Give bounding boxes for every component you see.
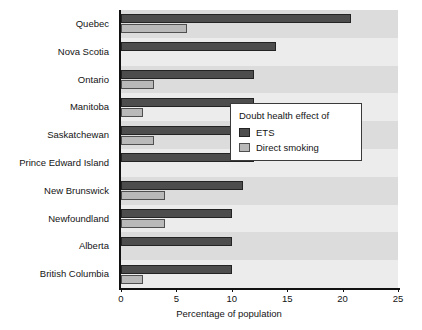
x-axis-title: Percentage of population xyxy=(0,308,422,319)
y-axis-line xyxy=(119,10,121,289)
legend-swatch-ets-icon xyxy=(239,128,250,137)
bar-ets-alberta xyxy=(121,237,232,246)
bar-direct-smoking-quebec xyxy=(121,24,187,33)
y-axis-label-nova-scotia: Nova Scotia xyxy=(58,47,109,57)
y-axis-label-saskatchewan: Saskatchewan xyxy=(47,130,109,140)
bar-ets-british-columbia xyxy=(121,265,232,274)
bar-direct-smoking-british-columbia xyxy=(121,275,143,284)
x-tick-label-25: 25 xyxy=(393,293,404,304)
x-tick-label-0: 0 xyxy=(118,293,123,304)
x-tick-label-15: 15 xyxy=(282,293,293,304)
legend-swatch-direct-smoking-icon xyxy=(239,143,250,152)
x-axis-title-text: Percentage of population xyxy=(176,308,282,319)
legend: Doubt health effect of ETS Direct smokin… xyxy=(230,103,362,161)
bar-direct-smoking-ontario xyxy=(121,80,154,89)
y-axis-label-manitoba: Manitoba xyxy=(70,102,109,112)
x-tick-label-10: 10 xyxy=(227,293,238,304)
y-axis-label-quebec: Quebec xyxy=(76,19,109,29)
bar-ets-ontario xyxy=(121,70,254,79)
x-tick-label-20: 20 xyxy=(337,293,348,304)
bar-direct-smoking-new-brunswick xyxy=(121,191,165,200)
y-axis-category-labels: QuebecNova ScotiaOntarioManitobaSaskatch… xyxy=(0,10,115,288)
bar-direct-smoking-saskatchewan xyxy=(121,136,154,145)
y-axis-label-alberta: Alberta xyxy=(79,241,109,251)
bar-chart: QuebecNova ScotiaOntarioManitobaSaskatch… xyxy=(0,0,422,330)
x-tick-mark xyxy=(287,288,288,292)
legend-title: Doubt health effect of xyxy=(239,110,353,122)
x-tick-mark xyxy=(343,288,344,292)
bar-direct-smoking-manitoba xyxy=(121,108,143,117)
legend-item-ets: ETS xyxy=(239,127,353,138)
legend-label-ets: ETS xyxy=(256,127,274,138)
y-axis-label-british-columbia: British Columbia xyxy=(40,269,109,279)
y-axis-label-new-brunswick: New Brunswick xyxy=(44,186,109,196)
bar-ets-newfoundland xyxy=(121,209,232,218)
y-axis-label-prince-edward-island: Prince Edward Island xyxy=(19,158,109,168)
bar-ets-new-brunswick xyxy=(121,181,243,190)
legend-item-direct-smoking: Direct smoking xyxy=(239,142,353,153)
legend-label-direct-smoking: Direct smoking xyxy=(256,142,319,153)
bar-direct-smoking-newfoundland xyxy=(121,219,165,228)
y-axis-label-ontario: Ontario xyxy=(78,75,109,85)
x-tick-mark xyxy=(232,288,233,292)
x-tick-mark xyxy=(121,288,122,292)
bar-ets-quebec xyxy=(121,14,351,23)
x-tick-label-5: 5 xyxy=(174,293,179,304)
x-tick-mark xyxy=(398,288,399,292)
bar-ets-nova-scotia xyxy=(121,42,276,51)
x-tick-mark xyxy=(176,288,177,292)
y-axis-label-newfoundland: Newfoundland xyxy=(48,214,109,224)
